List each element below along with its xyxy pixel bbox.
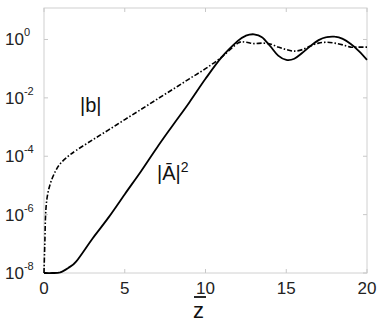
y-tick-label: 10-2 — [5, 85, 34, 108]
x-axis-label-text: z — [193, 298, 204, 323]
y-tick-label: 10-6 — [5, 202, 34, 225]
x-tick-label: 20 — [358, 279, 377, 298]
curve-label-a-base: |Ā| — [157, 162, 181, 184]
x-tick-label: 10 — [196, 279, 215, 298]
series-a-squared-solid — [44, 34, 367, 273]
y-axis-ticks: 10-810-610-410-2100 — [5, 26, 367, 283]
curve-label-a-exp: 2 — [181, 159, 189, 175]
curve-label-a-squared: |Ā|2 — [157, 159, 189, 184]
y-tick-label: 10-8 — [5, 260, 34, 283]
x-axis-ticks: 05101520 — [39, 8, 376, 298]
x-axis-label: z — [193, 297, 206, 323]
curve-label-b: |b| — [80, 94, 102, 116]
y-tick-label: 10-4 — [5, 143, 34, 166]
x-tick-label: 0 — [39, 279, 48, 298]
line-chart: 10-810-610-410-2100 05101520 |b| |Ā|2 z — [0, 0, 385, 325]
y-tick-label: 100 — [5, 26, 30, 49]
x-tick-label: 15 — [277, 279, 296, 298]
plot-frame — [44, 8, 367, 273]
x-tick-label: 5 — [120, 279, 129, 298]
